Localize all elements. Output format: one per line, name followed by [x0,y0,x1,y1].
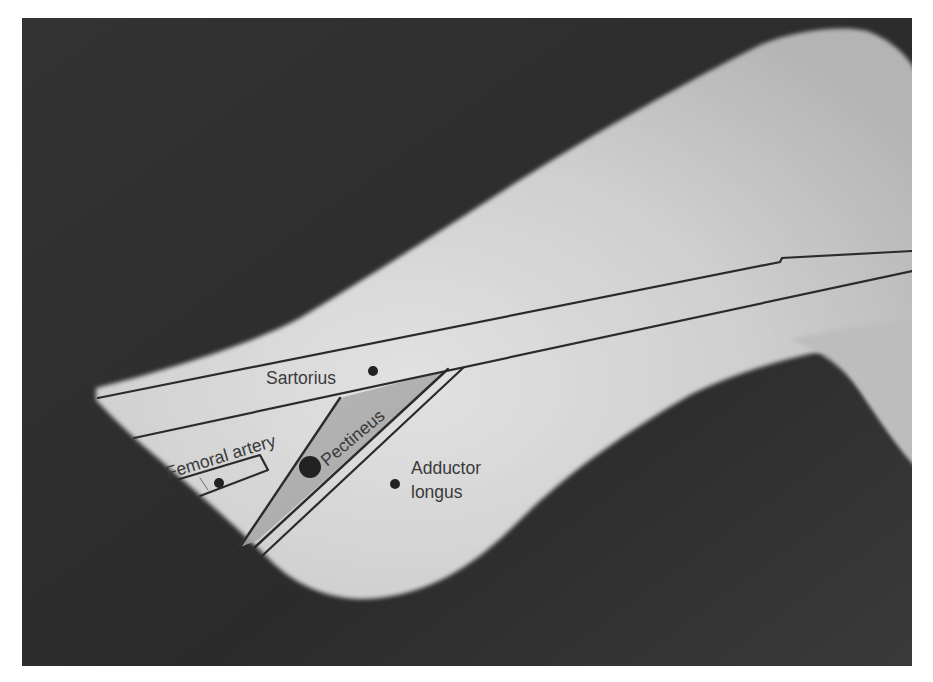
photo-frame: Sartorius Femoral artery Pectineus Adduc… [22,18,920,666]
anatomy-figure: Sartorius Femoral artery Pectineus Adduc… [0,0,933,682]
thigh-illustration: Sartorius Femoral artery Pectineus Adduc… [0,0,933,682]
